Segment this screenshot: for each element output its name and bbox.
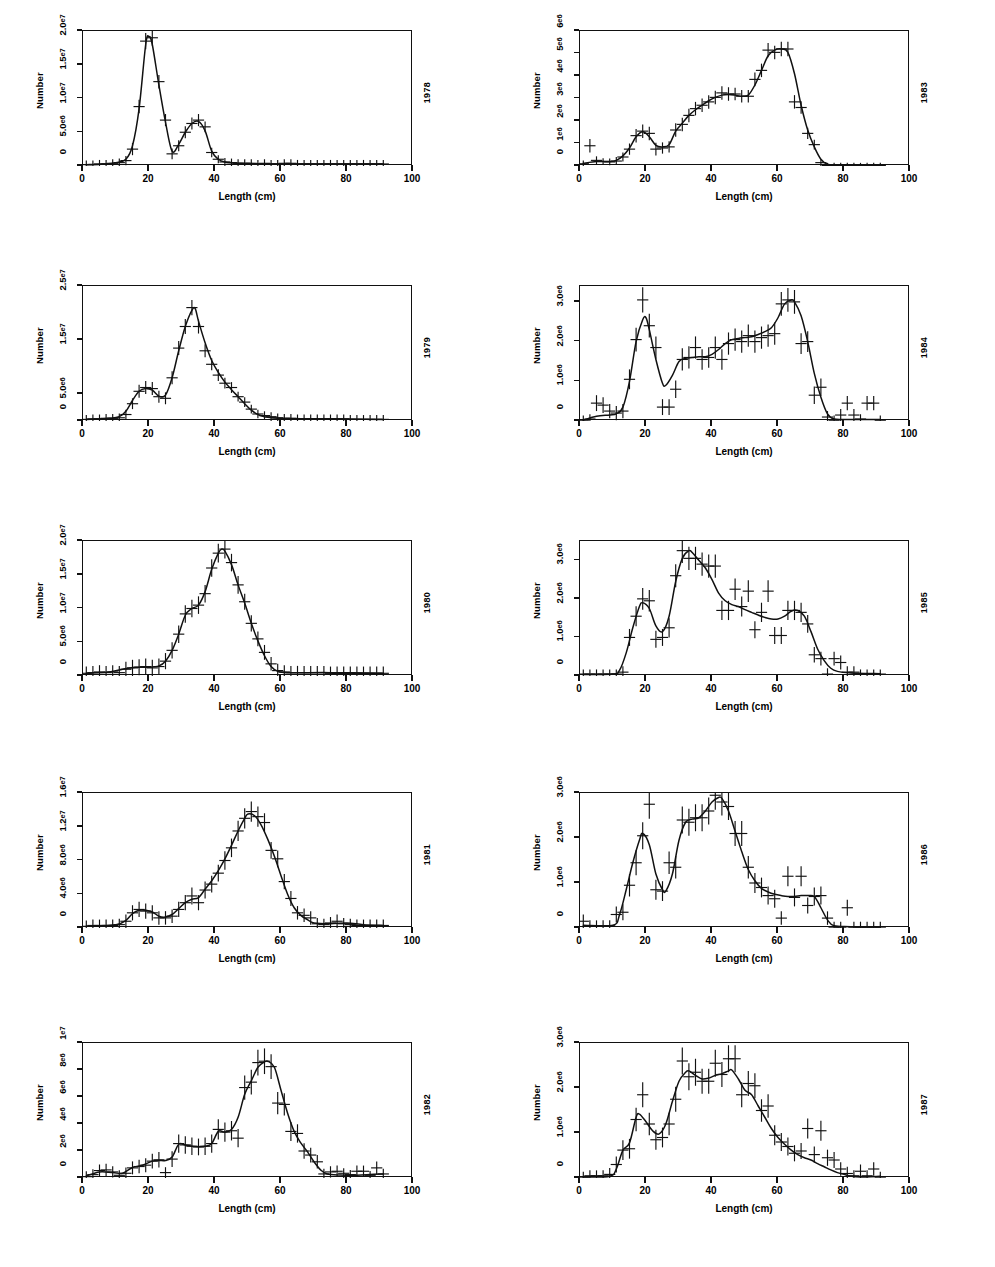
x-axis-tick-label: 0 [559,1185,599,1196]
y-tick-exponent: e6 [556,59,564,67]
y-tick-mantissa: 1.2 [58,818,68,831]
y-axis-title: Number [34,834,45,871]
y-axis-tick-label: 8.0e6 [58,844,68,866]
panel-year-label: 1984 [919,337,929,358]
y-axis-tick-label: 6e6 [555,14,565,28]
x-axis-tick-mark [644,165,646,171]
data-layer [83,286,413,421]
y-tick-exponent: e6 [556,1026,564,1034]
x-axis-tick-label: 60 [260,428,300,439]
x-axis-tick-label: 20 [625,683,665,694]
y-tick-exponent: e7 [59,1026,67,1034]
y-tick-mantissa: 1.5 [58,331,68,344]
y-axis-tick-label: 2.5e7 [58,269,68,291]
y-tick-mantissa: 4.0 [58,886,68,899]
x-axis-tick-mark [842,927,844,933]
y-axis-tick-label: 1.0e6 [555,866,565,888]
x-axis-tick-mark [411,165,413,171]
y-tick-mantissa: 2.0 [555,1079,565,1092]
x-axis-tick-mark [81,165,83,171]
y-tick-mantissa: 6 [58,1088,68,1093]
figure-panel-grid: 05.0e61.0e71.5e72.0e7020406080100NumberL… [0,0,995,1267]
y-tick-mantissa: 2.0 [58,532,68,545]
x-axis-tick-mark [578,420,580,426]
x-axis-tick-label: 40 [194,173,234,184]
y-axis-tick-mark [77,97,82,99]
y-tick-exponent: e7 [59,592,67,600]
x-axis-tick-mark [842,420,844,426]
y-tick-exponent: e6 [59,115,67,123]
y-axis-tick-label: 3.0e6 [555,285,565,307]
x-axis-title: Length (cm) [579,953,909,964]
y-axis-tick-label: 5e6 [555,37,565,51]
y-tick-exponent: e6 [556,104,564,112]
y-axis-tick-mark [574,836,579,838]
x-axis-title: Length (cm) [579,191,909,202]
y-axis-tick-label: 1e7 [58,1026,68,1040]
chart-panel-1981: 04.0e68.0e61.2e71.6e7020406080100NumberL… [0,762,497,1017]
x-axis-tick-label: 80 [326,1185,366,1196]
x-axis-tick-mark [279,420,281,426]
y-axis-tick-label: 6e6 [58,1080,68,1094]
x-axis-tick-label: 20 [625,1185,665,1196]
y-tick-exponent: e6 [556,37,564,45]
y-tick-exponent: e6 [59,877,67,885]
y-axis-title: Number [34,1084,45,1121]
y-tick-mantissa: 8.0 [58,852,68,865]
y-axis-title: Number [34,72,45,109]
x-axis-tick-mark [710,165,712,171]
y-axis-tick-mark [77,1149,82,1151]
y-axis-tick-label: 2.0e7 [58,524,68,546]
y-axis-tick-label: 3.0e6 [555,543,565,565]
x-axis-tick-mark [908,927,910,933]
x-axis-tick-label: 40 [194,1185,234,1196]
y-tick-mantissa: 5.0 [58,124,68,137]
x-axis-tick-mark [644,675,646,681]
y-tick-mantissa: 2 [58,1142,68,1147]
y-axis-tick-label: 0 [555,911,565,916]
y-axis-tick-label: 1.5e7 [58,48,68,70]
chart-panel-1983: 01e62e63e64e65e66e6020406080100NumberLen… [497,0,994,255]
data-layer [580,31,910,166]
x-axis-title: Length (cm) [82,446,412,457]
y-axis-tick-mark [574,380,579,382]
chart-panel-1979: 05.0e61.5e72.5e7020406080100NumberLength… [0,255,497,510]
y-tick-mantissa: 3.0 [555,1034,565,1047]
y-tick-exponent: e6 [59,844,67,852]
y-axis-tick-mark [77,893,82,895]
y-tick-exponent: e6 [556,285,564,293]
y-tick-mantissa: 0 [555,404,565,409]
y-tick-mantissa: 2.0 [555,590,565,603]
y-axis-tick-label: 0 [58,149,68,154]
x-axis-title: Length (cm) [579,446,909,457]
y-tick-mantissa: 1.0 [555,874,565,887]
y-tick-mantissa: 5 [555,45,565,50]
panel-year-label: 1986 [919,844,929,865]
x-axis-tick-label: 80 [823,173,863,184]
y-axis-tick-label: 5.0e6 [58,625,68,647]
x-axis-tick-label: 60 [757,1185,797,1196]
x-axis-tick-label: 80 [326,935,366,946]
y-axis-tick-mark [574,340,579,342]
x-axis-tick-mark [710,927,712,933]
x-axis-tick-mark [776,927,778,933]
x-axis-tick-label: 0 [62,683,102,694]
panel-year-label: 1983 [919,82,929,103]
x-axis-title: Length (cm) [82,191,412,202]
x-axis-title: Length (cm) [579,701,909,712]
x-axis-tick-label: 40 [194,683,234,694]
y-tick-mantissa: 8 [58,1061,68,1066]
y-tick-mantissa: 2 [555,112,565,117]
chart-panel-1987: 01.0e62.0e63.0e6020406080100NumberLength… [497,1012,994,1267]
y-axis-title: Number [531,72,542,109]
x-axis-tick-mark [81,927,83,933]
x-axis-tick-mark [710,1177,712,1183]
x-axis-tick-mark [81,1177,83,1183]
x-axis-tick-label: 0 [62,935,102,946]
y-tick-mantissa: 0 [58,149,68,154]
y-tick-mantissa: 0 [555,149,565,154]
y-axis-tick-mark [574,559,579,561]
x-axis-tick-label: 100 [889,1185,929,1196]
y-axis-tick-mark [77,1122,82,1124]
chart-panel-1982: 02e64e66e68e61e7020406080100NumberLength… [0,1012,497,1267]
